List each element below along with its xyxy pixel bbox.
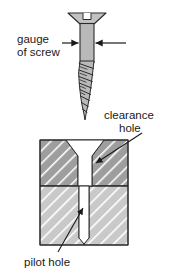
- lower-block-right: [84, 186, 128, 245]
- lower-block-left: [40, 186, 84, 245]
- workpiece-cross-section: [40, 140, 128, 245]
- clearance-label-line1: clearance: [104, 109, 154, 121]
- diagram-canvas: gauge of screw clearance hole pilot hole: [0, 0, 171, 274]
- gauge-label-line2: of screw: [17, 46, 61, 58]
- gauge-label-line1: gauge: [17, 33, 49, 45]
- pilot-label: pilot hole: [24, 256, 70, 268]
- screw-pilot-hole-diagram: gauge of screw clearance hole pilot hole: [0, 0, 171, 274]
- screw-slot: [83, 13, 91, 20]
- pilot-hole-void: [79, 186, 89, 244]
- screw-shank: [80, 24, 94, 63]
- clearance-label-line2: hole: [119, 122, 141, 134]
